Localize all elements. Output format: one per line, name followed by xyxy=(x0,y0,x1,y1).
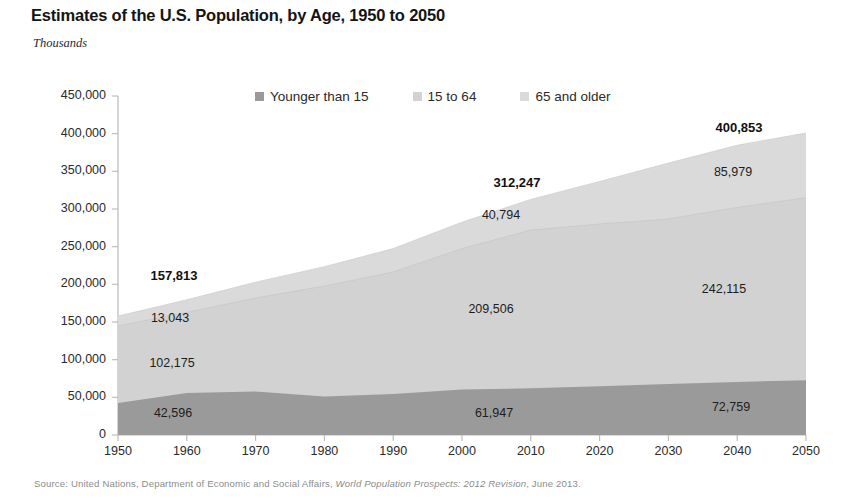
x-tick-label: 1950 xyxy=(88,444,148,458)
data-label-15-to-64-1950: 102,175 xyxy=(127,356,217,370)
x-tick-label: 2010 xyxy=(501,444,561,458)
x-tick-label: 2040 xyxy=(707,444,767,458)
source-suffix: , June 2013. xyxy=(526,478,581,489)
y-tick-label: 0 xyxy=(36,427,106,441)
data-label-total-2050: 400,853 xyxy=(694,120,784,135)
x-tick-label: 1990 xyxy=(363,444,423,458)
data-label-total-1950: 157,813 xyxy=(129,268,219,283)
x-tick-label: 1980 xyxy=(294,444,354,458)
data-label-total-2010: 312,247 xyxy=(472,175,562,190)
y-tick-label: 400,000 xyxy=(36,126,106,140)
data-label-15-to-64-2050: 242,115 xyxy=(679,282,769,296)
data-label-15-to-64-2010: 209,506 xyxy=(446,302,536,316)
x-tick-label: 1960 xyxy=(157,444,217,458)
plot-area: 450,000 400,000 350,000 300,000 250,000 … xyxy=(0,0,847,470)
y-tick-label: 350,000 xyxy=(36,163,106,177)
y-tick-label: 250,000 xyxy=(36,239,106,253)
x-tick-label: 2050 xyxy=(776,444,836,458)
y-tick-label: 200,000 xyxy=(36,276,106,290)
data-label-65-and-older-1950: 13,043 xyxy=(125,311,215,325)
y-tick-label: 150,000 xyxy=(36,314,106,328)
y-tick-marks xyxy=(112,96,118,435)
x-tick-label: 1970 xyxy=(226,444,286,458)
data-label-younger-than-15-1950: 42,596 xyxy=(128,406,218,420)
x-tick-label: 2020 xyxy=(570,444,630,458)
y-tick-label: 300,000 xyxy=(36,201,106,215)
chart-figure: Estimates of the U.S. Population, by Age… xyxy=(0,0,847,498)
x-tick-label: 2030 xyxy=(638,444,698,458)
data-label-65-and-older-2010: 40,794 xyxy=(456,208,546,222)
y-tick-label: 450,000 xyxy=(36,88,106,102)
data-label-younger-than-15-2010: 61,947 xyxy=(449,406,539,420)
source-prefix: Source: United Nations, Department of Ec… xyxy=(34,478,336,489)
data-label-65-and-older-2050: 85,979 xyxy=(688,165,778,179)
data-label-younger-than-15-2050: 72,759 xyxy=(686,400,776,414)
x-tick-label: 2000 xyxy=(432,444,492,458)
x-tick-marks xyxy=(118,435,806,441)
y-tick-label: 50,000 xyxy=(36,389,106,403)
y-tick-label: 100,000 xyxy=(36,352,106,366)
source-note: Source: United Nations, Department of Ec… xyxy=(34,478,581,489)
source-publication: World Population Prospects: 2012 Revisio… xyxy=(336,478,527,489)
